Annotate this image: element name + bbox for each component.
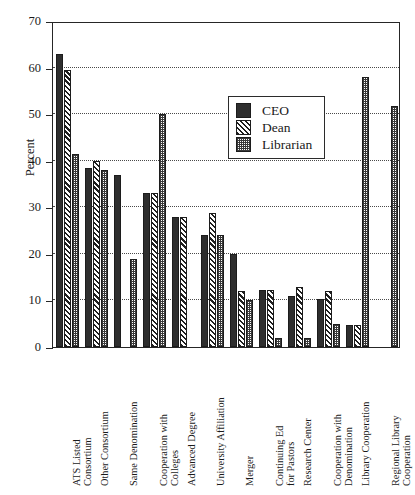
x-axis-label: ATS Listed Consortium <box>72 368 93 486</box>
x-axis-label: University Affiliation <box>216 368 227 486</box>
x-axis-label: Library Cooperation <box>361 368 372 486</box>
x-axis-label: Cooperation with Colleges <box>159 368 180 486</box>
x-axis-label: Same Denomination <box>129 368 140 486</box>
x-axis-label: Continuing Ed for Pastors <box>275 368 296 486</box>
x-axis-label: Merger <box>245 368 256 486</box>
x-axis-label: Regional Library Cooperation <box>391 368 412 486</box>
bar-chart: Percent 010203040506070 CEODeanLibrarian… <box>0 0 415 495</box>
x-axis-labels: ATS Listed ConsortiumOther ConsortiumSam… <box>0 0 415 495</box>
x-axis-label: Other Consortium <box>100 368 111 486</box>
x-axis-label: Cooperation with Denomination <box>333 368 354 486</box>
x-axis-label: Advanced Degree <box>187 368 198 486</box>
x-axis-label: Research Center <box>303 368 314 486</box>
